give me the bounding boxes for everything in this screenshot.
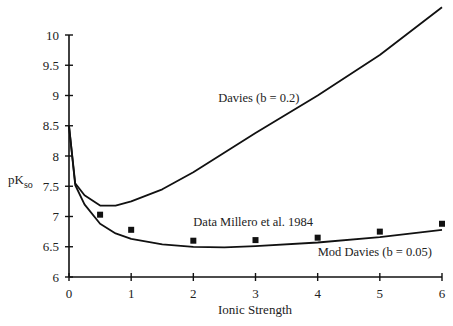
x-tick-label: 5 [377,286,384,301]
y-axis-label-subscript: so [24,179,33,190]
y-tick-label: 6 [53,270,60,285]
x-tick-label: 3 [252,286,259,301]
series-annotation: Mod Davies (b = 0.05) [318,245,432,259]
series-line-1 [69,126,442,248]
y-tick-label: 8.5 [43,118,59,133]
data-point-marker [377,229,383,235]
y-tick-label: 8 [53,149,60,164]
series-line-0 [69,7,442,205]
y-tick-label: 10 [46,28,59,43]
y-tick-label: 9 [53,88,60,103]
y-tick-label: 9.5 [43,58,59,73]
series-annotation: Data Millero et al. 1984 [193,215,314,229]
x-tick-label: 2 [190,286,197,301]
x-axis-label: Ionic Strength [218,302,293,317]
y-axis-label-main: pK [8,172,25,187]
data-point-marker [315,235,321,241]
data-point-marker [190,238,196,244]
y-tick-label: 6.5 [43,239,59,254]
x-tick-label: 6 [439,286,446,301]
chart: 012345666.577.588.599.510 Davies (b = 0.… [0,0,453,326]
y-tick-label: 7.5 [43,179,59,194]
ticks: 012345666.577.588.599.510 [43,28,446,302]
series-annotation: Davies (b = 0.2) [218,91,299,105]
data-point-marker [97,212,103,218]
y-axis-label: pKso [8,172,33,190]
series [69,7,445,247]
annotations: Davies (b = 0.2)Data Millero et al. 1984… [193,91,432,259]
data-point-marker [253,237,259,243]
data-point-marker [128,227,134,233]
y-tick-label: 7 [53,209,60,224]
x-tick-label: 4 [314,286,321,301]
x-tick-label: 0 [66,286,73,301]
x-tick-label: 1 [128,286,135,301]
data-point-marker [439,221,445,227]
